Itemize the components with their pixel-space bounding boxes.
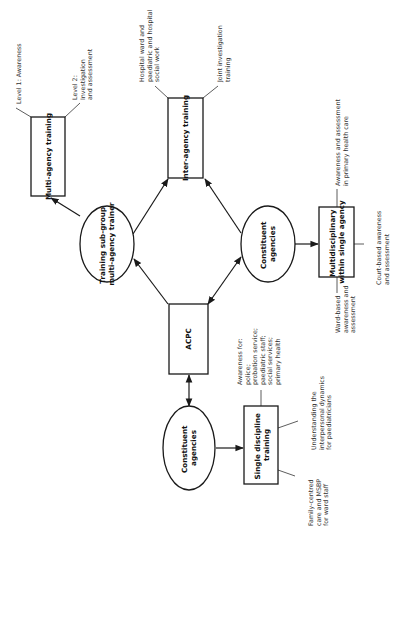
note-multi-level1: Level 1: Awareness (15, 43, 22, 104)
svg-text:Hospital ward and paedia: Hospital ward and paediatric and hospita… (138, 8, 160, 82)
node-label-line1: Training sub-group (98, 207, 107, 284)
svg-text:Level 1: Awareness: Level 1: Awareness (15, 43, 22, 104)
svg-text:Court-based awareness an: Court-based awareness and assessment (375, 209, 390, 285)
node-inter-agency-training: Inter-agency training (168, 95, 203, 181)
edge-training-to-inter-agency (133, 179, 168, 234)
note-inter-joint: Joint investigation training (216, 23, 232, 83)
svg-text:Joint investigation trai: Joint investigation training (216, 23, 232, 83)
node-label-line2: within single agency (337, 200, 346, 284)
node-single-discipline: Single discipline training (244, 406, 278, 484)
svg-text:Constituent agencies: Constituent agencies (259, 219, 277, 269)
svg-text:Constituent agencies: Constituent agencies (180, 423, 198, 473)
svg-text:Awareness and assessment: Awareness and assessment in primary heal… (334, 97, 350, 186)
node-label: Multi-agency training (44, 113, 53, 200)
svg-text:Level 2: Investigation: Level 2: Investigation and assessment (71, 48, 93, 100)
node-label: ACPC (184, 328, 193, 349)
note-sd-family: Family-centred care and MSBP for ward st… (307, 477, 329, 526)
node-label-line1: Constituent (180, 425, 189, 473)
svg-text:Awareness for: police;: Awareness for: police; probation service… (236, 326, 282, 385)
node-label-line2: agencies (268, 226, 277, 262)
svg-text:Inter-agency training: Inter-agency training (181, 95, 190, 181)
node-label-line2: agencies (189, 430, 198, 466)
svg-text:Understanding the interp: Understanding the interpersonal dynamics… (310, 374, 333, 450)
note-multi-level2: Level 2: Investigation and assessment (71, 48, 93, 100)
node-acpc: ACPC (169, 304, 208, 374)
note-sd-understanding: Understanding the interpersonal dynamics… (310, 374, 333, 450)
svg-text:Multidisciplinary within: Multidisciplinary within single agency (328, 200, 346, 284)
edge-training-to-multi-agency (51, 198, 80, 216)
node-label-line2: training (262, 429, 271, 461)
note-md-primary: Awareness and assessment in primary heal… (334, 97, 350, 186)
node-multidisciplinary: Multidisciplinary within single agency (319, 200, 354, 284)
svg-text:ACPC: ACPC (184, 328, 193, 349)
node-label-line1: Single discipline (253, 413, 262, 480)
node-label-line2: multi-agency trainer (107, 202, 116, 286)
svg-text:Family-centred care and: Family-centred care and MSBP for ward st… (307, 477, 329, 526)
note-md-court: Court-based awareness and assessment (375, 209, 390, 285)
edge-constituent-right-to-inter-agency (205, 179, 241, 233)
edge-acpc-to-training-subgroup (134, 259, 168, 304)
node-training-subgroup: Training sub-group multi-agency trainer (80, 202, 134, 286)
node-label-line1: Multidisciplinary (328, 209, 337, 277)
node-constituent-agencies-bottom: Constituent agencies (163, 406, 215, 490)
training-structure-diagram: Multi-agency training Inter-agency train… (0, 0, 400, 633)
node-multi-agency-training: Multi-agency training (31, 113, 65, 200)
node-label-line1: Constituent (259, 221, 268, 269)
note-sd-awareness: Awareness for: police; probation service… (236, 326, 282, 385)
edge-acpc-constituent-right (208, 257, 241, 304)
node-label: Inter-agency training (181, 95, 190, 181)
svg-text:Training sub-group multi: Training sub-group multi-agency trainer (98, 202, 116, 286)
note-inter-hospital: Hospital ward and paediatric and hospita… (138, 8, 160, 82)
node-constituent-agencies-right: Constituent agencies (241, 206, 295, 282)
